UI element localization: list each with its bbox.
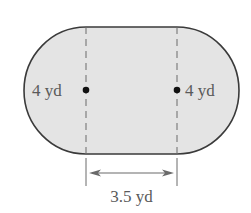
right-center-dot	[174, 87, 181, 94]
stadium-diagram: 4 yd 4 yd 3.5 yd	[0, 0, 251, 213]
left-radius-label: 4 yd	[32, 81, 62, 100]
right-radius-label: 4 yd	[185, 81, 215, 100]
left-center-dot	[83, 87, 90, 94]
center-distance-label: 3.5 yd	[110, 187, 153, 206]
